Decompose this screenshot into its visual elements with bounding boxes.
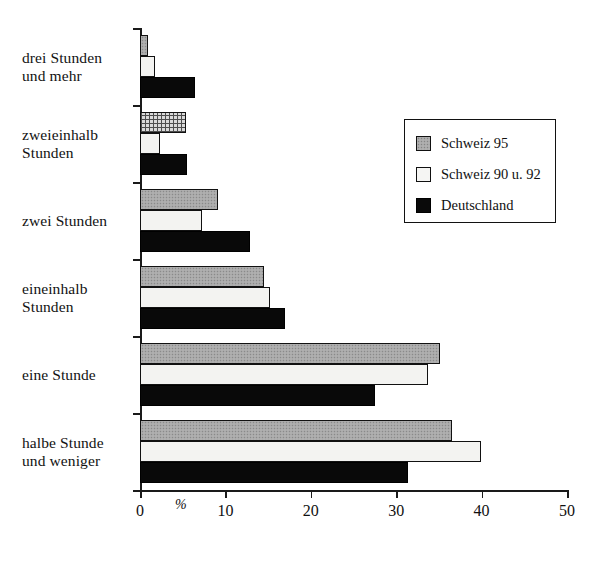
category-label-line: eineinhalb	[0, 280, 128, 298]
category-label: zwei Stunden	[0, 212, 128, 230]
category-label-line: Stunden	[0, 144, 128, 162]
y-axis-tick	[133, 105, 140, 107]
category-label-line: drei Stunden	[0, 49, 128, 67]
legend-swatch	[416, 167, 431, 182]
category-label: drei Stundenund mehr	[0, 49, 128, 85]
legend-label: Schweiz 95	[441, 135, 508, 152]
bar-chart: drei Stundenund mehrzweieinhalbStundenzw…	[0, 0, 608, 570]
x-axis-tick-label: 50	[559, 502, 575, 520]
category-label: eine Stunde	[0, 366, 128, 384]
category-label-line: zwei Stunden	[0, 212, 128, 230]
chart-legend: Schweiz 95Schweiz 90 u. 92Deutschland	[404, 119, 556, 223]
bar	[140, 343, 440, 364]
bar	[140, 35, 148, 56]
x-axis-tick	[482, 490, 484, 498]
category-label-line: zweieinhalb	[0, 126, 128, 144]
bar	[140, 231, 250, 252]
x-axis-title: %	[175, 497, 187, 513]
legend-item: Schweiz 95	[416, 134, 508, 152]
x-axis-tick	[396, 490, 398, 498]
plot-area: 01020304050	[140, 28, 567, 490]
legend-label: Deutschland	[441, 197, 513, 214]
category-label: eineinhalbStunden	[0, 280, 128, 316]
x-axis-tick	[567, 490, 569, 498]
bar	[140, 133, 160, 154]
bar	[140, 56, 155, 77]
x-axis-line	[140, 490, 567, 492]
y-axis-tick	[133, 28, 140, 30]
bar	[140, 189, 218, 210]
x-axis-tick-label: 0	[136, 502, 144, 520]
bar	[140, 77, 195, 98]
x-axis-tick	[140, 490, 142, 498]
y-axis-tick	[133, 336, 140, 338]
category-label-line: eine Stunde	[0, 366, 128, 384]
x-axis-tick-label: 10	[217, 502, 233, 520]
x-axis-tick-label: 40	[474, 502, 490, 520]
category-label: halbe Stundeund weniger	[0, 434, 128, 470]
bar	[140, 112, 186, 133]
bar	[140, 420, 452, 441]
bar	[140, 364, 428, 385]
legend-item: Deutschland	[416, 196, 513, 214]
y-axis-tick	[133, 490, 140, 492]
category-axis-labels: drei Stundenund mehrzweieinhalbStundenzw…	[0, 0, 134, 570]
legend-label: Schweiz 90 u. 92	[441, 166, 541, 183]
category-label-line: und weniger	[0, 452, 128, 470]
bar	[140, 385, 375, 406]
x-axis-tick-label: 30	[388, 502, 404, 520]
x-axis-tick-label: 20	[303, 502, 319, 520]
legend-item: Schweiz 90 u. 92	[416, 165, 541, 183]
y-axis-tick	[133, 182, 140, 184]
bar	[140, 154, 187, 175]
bar	[140, 462, 408, 483]
y-axis-tick	[133, 259, 140, 261]
category-label: zweieinhalbStunden	[0, 126, 128, 162]
bar	[140, 308, 285, 329]
legend-swatch	[416, 136, 431, 151]
category-label-line: Stunden	[0, 298, 128, 316]
bar	[140, 441, 481, 462]
bar	[140, 266, 264, 287]
x-axis-tick	[311, 490, 313, 498]
legend-swatch	[416, 198, 431, 213]
bar	[140, 210, 202, 231]
category-label-line: halbe Stunde	[0, 434, 128, 452]
y-axis-tick	[133, 413, 140, 415]
category-label-line: und mehr	[0, 67, 128, 85]
bar	[140, 287, 270, 308]
x-axis-tick	[225, 490, 227, 498]
